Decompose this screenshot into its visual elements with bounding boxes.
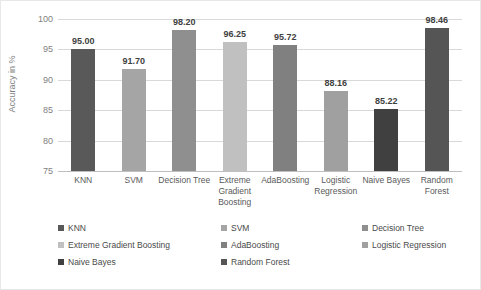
x-axis-category-label: Extreme Gradient Boosting [208, 175, 262, 208]
y-axis-ticks: 7580859095100 [1, 19, 53, 171]
bar[interactable] [172, 30, 196, 171]
x-axis-category-label: Decision Tree [157, 175, 211, 186]
bar-group: 98.20Decision Tree [159, 19, 210, 171]
y-axis-tick-label: 100 [5, 15, 53, 24]
bar[interactable] [324, 91, 348, 171]
legend-swatch-icon [362, 242, 368, 248]
bar-chart-figure: Accuracy in % 7580859095100 95.00KNN91.7… [0, 0, 481, 290]
bar-value-label: 98.20 [173, 17, 196, 27]
x-axis-line [58, 171, 462, 172]
legend-item[interactable]: AdaBoosting [221, 240, 362, 250]
x-axis-category-label: SVM [107, 175, 161, 186]
x-axis-category-label: KNN [56, 175, 110, 186]
x-axis-category-label: Logistic Regression [309, 175, 363, 197]
y-axis-tick-label: 75 [5, 167, 53, 176]
legend-label: Logistic Regression [372, 240, 446, 250]
legend-label: Naive Bayes [68, 257, 116, 267]
legend-label: AdaBoosting [231, 240, 279, 250]
legend-item[interactable]: Extreme Gradient Boosting [58, 240, 221, 250]
y-axis-tick-label: 95 [5, 45, 53, 54]
legend-swatch-icon [58, 242, 64, 248]
bar-value-label: 95.72 [274, 32, 297, 42]
bar-group: 95.00KNN [58, 19, 109, 171]
bar-value-label: 96.25 [223, 29, 246, 39]
legend-item[interactable]: SVM [221, 223, 362, 233]
legend-label: SVM [231, 223, 249, 233]
legend-item[interactable]: Random Forest [221, 257, 362, 267]
bar[interactable] [374, 109, 398, 171]
legend-swatch-icon [221, 225, 227, 231]
legend-label: Decision Tree [372, 223, 424, 233]
x-axis-category-label: Random Forest [410, 175, 464, 197]
y-axis-tick-label: 85 [5, 106, 53, 115]
legend-row: Extreme Gradient BoostingAdaBoostingLogi… [58, 240, 458, 250]
legend-swatch-icon [58, 225, 64, 231]
x-axis-category-label: AdaBoosting [258, 175, 312, 186]
legend-swatch-icon [221, 259, 227, 265]
bar-value-label: 91.70 [122, 56, 145, 66]
legend-item[interactable]: Logistic Regression [362, 240, 458, 250]
bar-group: 95.72AdaBoosting [260, 19, 311, 171]
bar-group: 91.70SVM [109, 19, 160, 171]
chart-legend: KNNSVMDecision TreeExtreme Gradient Boos… [58, 223, 458, 274]
bar-value-label: 85.22 [375, 96, 398, 106]
y-axis-tick-label: 90 [5, 75, 53, 84]
bar-value-label: 98.46 [425, 15, 448, 25]
plot-area: 95.00KNN91.70SVM98.20Decision Tree96.25E… [58, 19, 462, 171]
bar-group: 88.16Logistic Regression [311, 19, 362, 171]
legend-row: Naive BayesRandom Forest [58, 257, 458, 267]
legend-label: Extreme Gradient Boosting [68, 240, 170, 250]
legend-swatch-icon [221, 242, 227, 248]
y-axis-tick-label: 80 [5, 136, 53, 145]
legend-item[interactable]: Naive Bayes [58, 257, 221, 267]
bar[interactable] [223, 42, 247, 171]
bar[interactable] [273, 45, 297, 171]
bar-group: 98.46Random Forest [412, 19, 463, 171]
bar-group: 96.25Extreme Gradient Boosting [210, 19, 261, 171]
bar[interactable] [425, 28, 449, 171]
legend-swatch-icon [58, 259, 64, 265]
bar[interactable] [122, 69, 146, 171]
legend-item[interactable]: KNN [58, 223, 221, 233]
bar-value-label: 88.16 [324, 78, 347, 88]
x-axis-category-label: Naive Bayes [359, 175, 413, 186]
legend-label: Random Forest [231, 257, 290, 267]
bar[interactable] [71, 49, 95, 171]
legend-item[interactable]: Decision Tree [362, 223, 458, 233]
bar-group: 85.22Naive Bayes [361, 19, 412, 171]
legend-label: KNN [68, 223, 86, 233]
bar-value-label: 95.00 [72, 36, 95, 46]
legend-row: KNNSVMDecision Tree [58, 223, 458, 233]
legend-swatch-icon [362, 225, 368, 231]
